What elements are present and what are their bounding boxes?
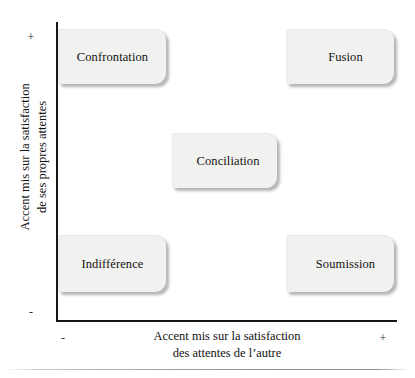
x-axis-high-marker: + bbox=[376, 332, 390, 344]
y-axis-high-marker: + bbox=[24, 31, 38, 43]
node-indifference-label: Indifférence bbox=[81, 257, 143, 272]
node-soumission-label: Soumission bbox=[316, 257, 375, 272]
node-conciliation-label: Conciliation bbox=[197, 154, 260, 169]
node-confrontation: Confrontation bbox=[58, 29, 166, 84]
page-bottom-rule bbox=[6, 369, 409, 370]
x-axis-low-marker: - bbox=[56, 332, 70, 344]
node-indifference: Indifférence bbox=[58, 235, 166, 292]
node-fusion: Fusion bbox=[286, 29, 394, 84]
x-axis-title-line-2: des attentes de l’autre bbox=[96, 345, 358, 362]
node-confrontation-label: Confrontation bbox=[77, 50, 148, 65]
node-fusion-label: Fusion bbox=[328, 50, 363, 65]
node-soumission: Soumission bbox=[286, 235, 394, 292]
x-axis-line bbox=[56, 320, 397, 322]
y-axis-low-marker: - bbox=[24, 306, 38, 318]
x-axis-title-line-1: Accent mis sur la satisfaction bbox=[96, 328, 358, 345]
x-axis-title: Accent mis sur la satisfaction des atten… bbox=[96, 328, 358, 362]
y-axis-title: Accent mis sur la satisfaction de ses pr… bbox=[17, 47, 51, 267]
y-axis-title-line-2: de ses propres attentes bbox=[34, 47, 51, 267]
y-axis-title-line-1: Accent mis sur la satisfaction bbox=[17, 47, 34, 267]
conflict-management-matrix-diagram: + - - + Confrontation Fusion Conciliatio… bbox=[0, 0, 415, 378]
node-conciliation: Conciliation bbox=[172, 133, 277, 188]
